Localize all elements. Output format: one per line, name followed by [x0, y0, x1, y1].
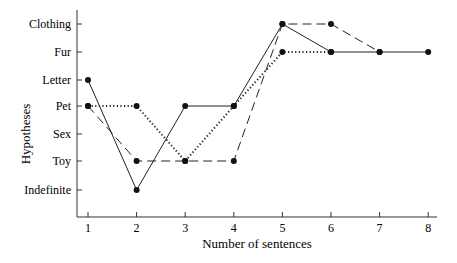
- data-point: [425, 49, 431, 55]
- data-point: [85, 103, 91, 109]
- data-point: [328, 21, 334, 27]
- data-point: [328, 49, 334, 55]
- y-tick-label: Letter: [42, 73, 71, 87]
- y-tick-label: Toy: [53, 154, 72, 168]
- y-tick-label: Clothing: [29, 17, 71, 31]
- x-axis-label: Number of sentences: [202, 236, 312, 251]
- x-tick-label: 1: [85, 221, 91, 235]
- data-point: [85, 77, 91, 83]
- x-tick-label: 2: [134, 221, 140, 235]
- series-dashed-line: [88, 24, 380, 161]
- data-point: [134, 158, 140, 164]
- y-tick-label: Sex: [53, 127, 71, 141]
- x-tick-label: 3: [182, 221, 188, 235]
- data-point: [134, 187, 140, 193]
- x-tick-label: 4: [231, 221, 237, 235]
- y-tick-label: Indefinite: [24, 183, 71, 197]
- x-tick-label: 6: [328, 221, 334, 235]
- x-tick-label: 5: [279, 221, 285, 235]
- data-point: [231, 158, 237, 164]
- y-tick-label: Fur: [54, 45, 71, 59]
- data-point: [377, 49, 383, 55]
- data-point: [279, 21, 285, 27]
- data-point: [231, 103, 237, 109]
- y-tick-label: Pet: [56, 99, 72, 113]
- x-axis-ticks: 12345678: [85, 212, 431, 235]
- data-point: [182, 103, 188, 109]
- line-chart: ClothingFurLetterPetSexToyIndefinite 123…: [0, 0, 457, 263]
- series-lines: [85, 21, 431, 193]
- axes: [77, 10, 437, 217]
- data-point: [182, 158, 188, 164]
- y-axis-label: Hypotheses: [18, 104, 33, 165]
- data-point: [279, 49, 285, 55]
- x-tick-label: 7: [377, 221, 383, 235]
- x-tick-label: 8: [425, 221, 431, 235]
- data-point: [134, 103, 140, 109]
